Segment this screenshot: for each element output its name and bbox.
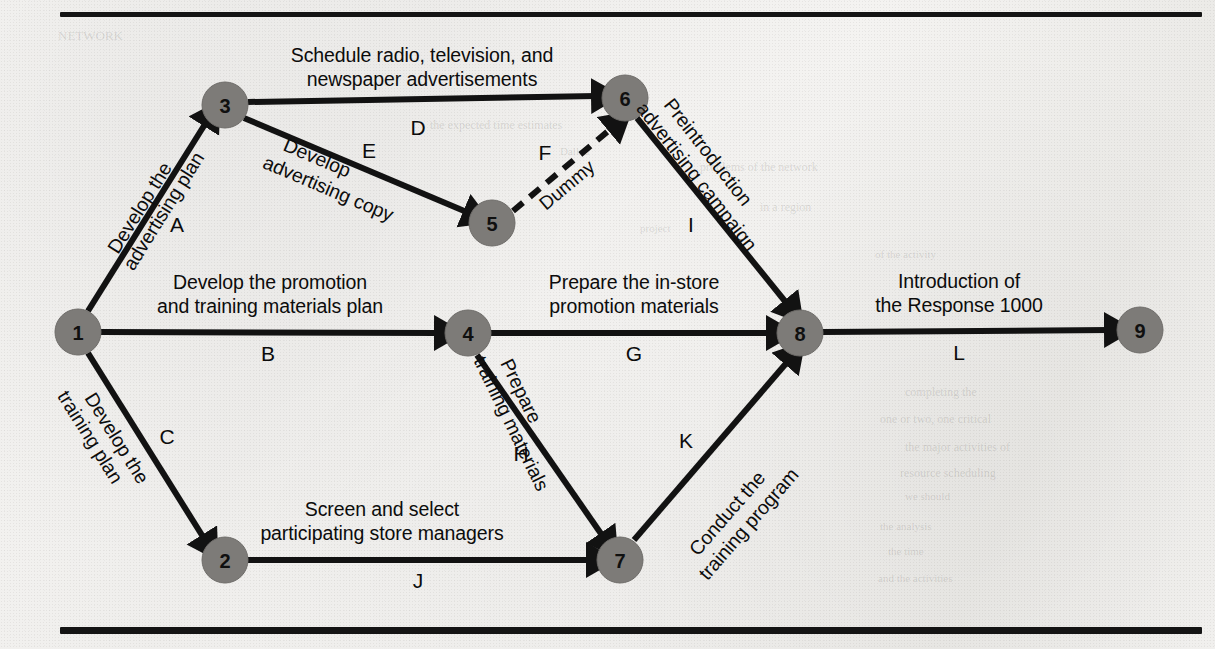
label-D-line1: Schedule radio, television, and [291,44,554,66]
label-L: Introduction of the Response 1000 L [875,270,1043,364]
node-7[interactable]: 7 [597,537,643,583]
node-1[interactable]: 1 [55,309,101,355]
activity-letter-D: D [410,116,425,139]
top-rule [60,12,1202,17]
node-3[interactable]: 3 [202,82,248,128]
node-4[interactable]: 4 [445,310,491,356]
label-J-line1: Screen and select [305,498,460,520]
node-8-label: 8 [794,323,805,345]
activity-letter-J: J [413,569,424,592]
label-B-line2: and training materials plan [157,295,383,317]
node-2-label: 2 [219,550,230,572]
figure-page: NETWORKthe expected time estimatesDallad… [0,0,1215,649]
label-B-line1: Develop the promotion [173,271,367,293]
node-9-label: 9 [1134,320,1145,342]
node-6-label: 6 [619,88,630,110]
activity-letter-C: C [159,425,174,448]
activity-letter-G: G [626,342,642,365]
label-J-line2: participating store managers [260,522,504,544]
activity-letter-L: L [953,341,965,364]
label-J: Screen and select participating store ma… [260,498,504,592]
activity-letter-E: E [362,139,376,162]
edge-L [823,330,1110,332]
label-I: Preintroduction advertising campaign [632,83,780,255]
edge-D [248,96,597,102]
node-5-label: 5 [486,213,497,235]
node-7-label: 7 [614,550,625,572]
activity-letter-F: F [539,141,552,164]
activity-letter-A: A [170,213,184,236]
node-8[interactable]: 8 [777,310,823,356]
node-4-label: 4 [462,323,474,345]
edge-L-line [823,330,1110,332]
activity-letter-B: B [261,342,275,365]
activity-letter-H: H [513,442,528,465]
node-5[interactable]: 5 [469,200,515,246]
label-G-line2: promotion materials [549,295,719,317]
label-L-line1: Introduction of [898,270,1021,292]
label-L-line2: the Response 1000 [875,294,1043,316]
label-A: Develop the advertising plan [100,136,209,274]
edge-D-line [248,96,597,102]
label-B: Develop the promotion and training mater… [157,271,383,365]
bottom-rule [60,627,1202,634]
label-G-line1: Prepare the in-store [549,271,719,293]
node-2[interactable]: 2 [202,537,248,583]
label-G: Prepare the in-store promotion materials… [549,271,719,365]
edge-B [101,332,440,333]
label-D-line2: newspaper advertisements [307,68,538,90]
node-9[interactable]: 9 [1117,307,1163,353]
node-1-label: 1 [72,322,83,344]
network-diagram: 1 2 3 4 5 6 7 8 [0,0,1215,649]
activity-letter-K: K [679,429,693,452]
label-D: Schedule radio, television, and newspape… [291,44,554,139]
node-3-label: 3 [219,95,230,117]
activity-letter-I: I [688,213,694,236]
edge-B-line [101,332,440,333]
